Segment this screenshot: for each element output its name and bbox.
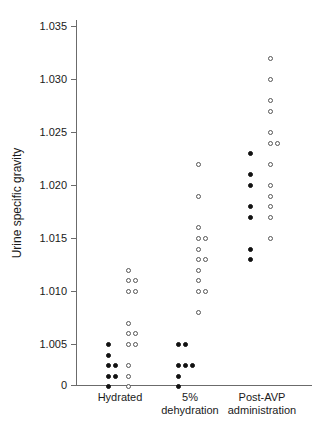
data-point-filled xyxy=(176,342,181,347)
y-axis-tick-label: 1.020 xyxy=(39,180,67,191)
plot-area xyxy=(76,20,312,385)
data-point-filled xyxy=(176,384,181,389)
data-point-open xyxy=(268,56,273,61)
data-point-open xyxy=(196,289,201,294)
data-point-open xyxy=(203,236,208,241)
data-point-open xyxy=(203,289,208,294)
data-point-open xyxy=(268,162,273,167)
data-point-open xyxy=(268,236,273,241)
data-point-filled xyxy=(113,374,118,379)
data-point-filled xyxy=(176,374,181,379)
y-axis-tick-label: 1.035 xyxy=(39,21,67,32)
data-point-open xyxy=(196,194,201,199)
y-axis-tick-label: 1.010 xyxy=(39,286,67,297)
data-point-filled xyxy=(183,342,188,347)
data-point-open xyxy=(126,342,131,347)
data-point-open xyxy=(268,109,273,114)
data-point-open xyxy=(268,194,273,199)
data-point-open xyxy=(133,289,138,294)
data-point-open xyxy=(196,247,201,252)
data-point-open xyxy=(268,215,273,220)
data-point-filled xyxy=(106,384,111,389)
y-axis-tick-mark xyxy=(71,385,76,386)
y-axis-tick-label: 1.005 xyxy=(39,339,67,350)
y-axis-tick-label: 1.025 xyxy=(39,127,67,138)
data-point-open xyxy=(268,141,273,146)
x-axis-label-line1: Post-AVP xyxy=(207,391,317,404)
data-point-open xyxy=(196,268,201,273)
data-point-open xyxy=(196,236,201,241)
data-point-filled xyxy=(106,374,111,379)
data-point-filled xyxy=(248,247,253,252)
data-point-open xyxy=(126,374,131,379)
data-point-filled xyxy=(106,353,111,358)
data-point-open xyxy=(126,289,131,294)
x-axis-label-line2: administration xyxy=(207,404,317,417)
data-point-open xyxy=(133,342,138,347)
data-point-open xyxy=(126,321,131,326)
data-point-open xyxy=(126,268,131,273)
data-point-open xyxy=(126,384,131,389)
data-point-filled xyxy=(248,215,253,220)
y-axis-tick-label: 1.030 xyxy=(39,74,67,85)
x-axis-line xyxy=(76,385,312,386)
x-axis-label-2: Post-AVPadministration xyxy=(207,391,317,417)
data-point-open xyxy=(268,183,273,188)
y-axis-tick-label: 0 xyxy=(61,380,67,391)
y-axis-title: Urine specific gravity xyxy=(10,108,24,298)
data-point-filled xyxy=(106,342,111,347)
y-axis-tick-label: 1.015 xyxy=(39,233,67,244)
urine-specific-gravity-scatter-figure: Urine specific gravity 1.0351.0301.0251.… xyxy=(0,0,326,439)
data-point-open xyxy=(196,162,201,167)
data-point-open xyxy=(268,130,273,135)
data-point-open xyxy=(268,77,273,82)
data-point-filled xyxy=(248,183,253,188)
data-point-open xyxy=(275,141,280,146)
